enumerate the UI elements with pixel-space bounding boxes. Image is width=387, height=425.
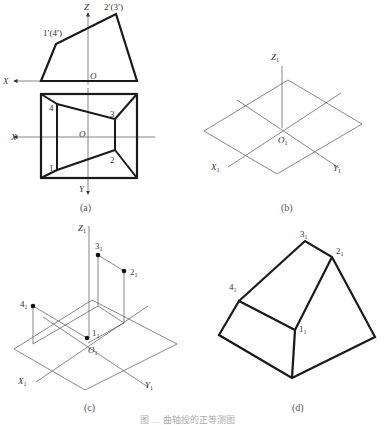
point-3 — [96, 253, 101, 258]
x1-axis-label: X1 — [211, 163, 220, 173]
top-label-3: 3 — [110, 110, 115, 119]
vertex-1-label: 11 — [299, 325, 307, 335]
point-4 — [31, 304, 36, 309]
panel-a-drawing — [0, 0, 387, 425]
x1-axis-label-c: X1 — [18, 377, 27, 387]
front-view — [14, 13, 137, 85]
x-axis-label-front: X — [3, 77, 9, 86]
top-view-outer-rect — [41, 94, 137, 178]
origin-o1-label: O1 — [278, 136, 288, 146]
front-label-2-3: 2′(3′) — [104, 3, 123, 12]
z1-axis-label: Z1 — [271, 53, 279, 63]
caption-b: (b) — [281, 203, 293, 213]
vertex-2-label: 21 — [336, 247, 344, 257]
point-3-label: 31 — [95, 242, 103, 252]
point-1 — [85, 336, 90, 341]
top-label-4: 4 — [49, 104, 54, 113]
origin-o1-label-c: O1 — [88, 346, 98, 356]
point-2 — [122, 269, 127, 274]
caption-d: (d) — [292, 403, 304, 413]
point-4-label: 41 — [20, 300, 28, 310]
y1-axis — [237, 100, 339, 168]
front-view-outline — [41, 14, 137, 81]
horizontal-plane — [14, 300, 177, 390]
y-axis-label: Y — [79, 185, 84, 194]
top-label-1: 1 — [49, 164, 54, 173]
panel-b-drawing — [204, 66, 362, 174]
panel-d-drawing — [219, 241, 375, 378]
top-view — [14, 88, 155, 194]
x-axis-label-top: X — [11, 133, 17, 142]
figure-caption: 图 … 曲轴投的正等测图 — [140, 413, 235, 425]
z-axis-label: Z — [84, 3, 89, 12]
vertex-4-label: 41 — [229, 283, 237, 293]
origin-label-top: O — [79, 130, 86, 139]
x1-axis — [228, 93, 341, 167]
horizontal-plane — [204, 80, 362, 174]
point-1-label: 11 — [92, 329, 100, 339]
front-label-1-4: 1′(4′) — [43, 29, 62, 38]
y1-axis-label-c: Y1 — [145, 381, 153, 391]
y1-axis-label: Y1 — [333, 164, 341, 174]
origin-label-front: O — [90, 72, 97, 81]
z1-axis-label-c: Z1 — [78, 224, 86, 234]
point-2-label: 21 — [130, 268, 138, 278]
caption-a: (a) — [80, 203, 91, 213]
top-label-2: 2 — [110, 156, 115, 165]
vertex-3-label: 31 — [300, 230, 308, 240]
caption-c: (c) — [84, 403, 95, 413]
